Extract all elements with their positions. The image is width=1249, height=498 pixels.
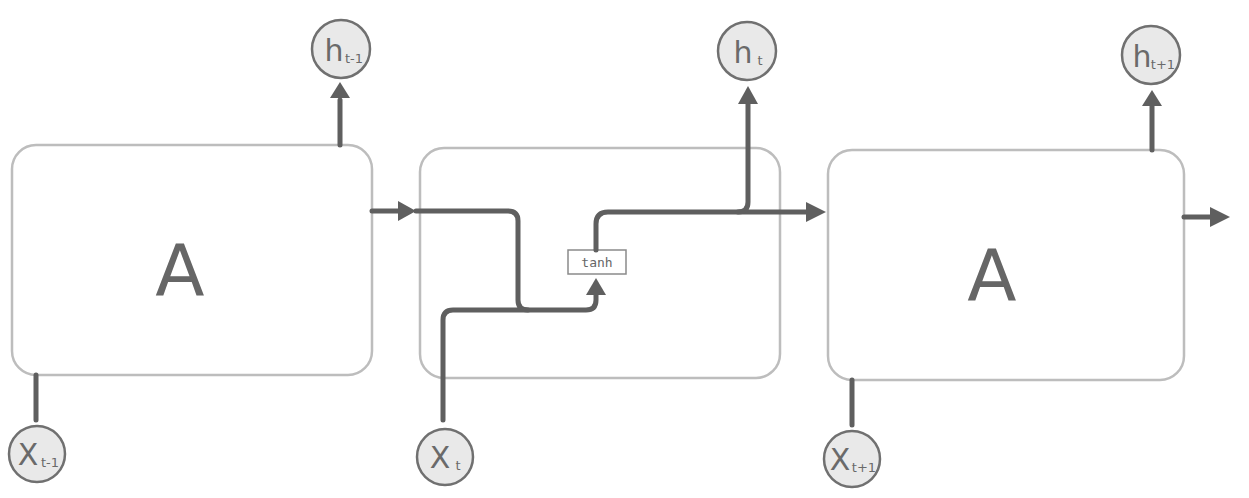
output-node-prev-sub: t-1 — [345, 51, 363, 66]
arrowhead-icon — [330, 82, 350, 98]
arrowhead-icon — [738, 86, 758, 104]
rnn-diagram: A A tanh h t-1 h t h t+1 X — [0, 0, 1249, 498]
input-node-prev-sub: t-1 — [41, 455, 59, 470]
arrowhead-icon — [806, 202, 826, 222]
arrowhead-icon — [1210, 207, 1230, 227]
input-node-next-sub: t+1 — [852, 460, 876, 475]
output-node-next-main: h — [1132, 39, 1151, 74]
input-node-next: X t+1 — [824, 431, 880, 487]
cell-label-next: A — [967, 233, 1016, 317]
output-node-current-sub: t — [757, 53, 762, 68]
output-node-next: h t+1 — [1122, 26, 1180, 84]
input-node-current: X t — [417, 429, 473, 485]
arrowhead-icon — [398, 201, 416, 221]
output-node-current-main: h — [733, 35, 752, 70]
input-node-prev: X t-1 — [9, 426, 65, 482]
input-node-current-sub: t — [455, 458, 460, 473]
output-node-current: h t — [718, 22, 776, 80]
input-node-prev-main: X — [18, 437, 39, 472]
output-node-next-sub: t+1 — [1151, 57, 1175, 72]
output-node-prev-main: h — [324, 33, 343, 68]
tanh-label: tanh — [581, 255, 612, 270]
input-node-next-main: X — [830, 442, 851, 477]
cell-label-prev: A — [155, 228, 204, 312]
input-node-current-main: X — [430, 440, 451, 475]
output-node-prev: h t-1 — [312, 20, 370, 78]
arrowhead-icon — [1142, 90, 1162, 106]
